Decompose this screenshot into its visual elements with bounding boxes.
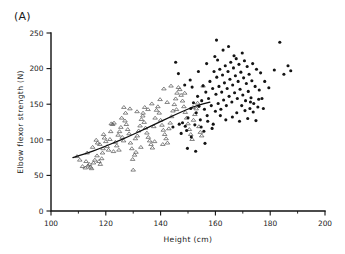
data-point xyxy=(124,123,129,126)
data-point xyxy=(228,95,231,98)
data-point xyxy=(236,97,239,100)
data-point xyxy=(250,79,253,82)
data-point xyxy=(282,73,285,76)
data-point xyxy=(162,87,167,90)
data-point xyxy=(235,57,238,60)
data-point xyxy=(241,93,244,96)
data-point xyxy=(217,85,220,88)
data-point xyxy=(198,130,203,133)
data-point xyxy=(259,71,262,74)
data-point xyxy=(165,101,170,104)
data-point xyxy=(200,125,203,128)
data-point xyxy=(207,97,210,100)
data-point xyxy=(145,131,150,134)
data-point xyxy=(257,98,260,101)
data-point xyxy=(232,54,235,57)
data-point xyxy=(165,141,170,144)
data-point xyxy=(114,144,119,147)
data-point xyxy=(164,137,169,140)
data-point xyxy=(84,160,89,163)
data-point xyxy=(237,80,240,83)
data-point xyxy=(219,114,222,117)
data-point xyxy=(131,168,136,171)
data-point xyxy=(150,146,155,149)
data-point xyxy=(93,158,98,161)
data-point xyxy=(169,84,174,87)
data-point xyxy=(214,110,217,113)
data-point xyxy=(111,150,116,153)
data-point xyxy=(218,68,221,71)
data-point xyxy=(197,70,200,73)
data-point xyxy=(243,59,246,62)
data-point xyxy=(216,59,219,62)
data-point xyxy=(185,129,188,132)
data-point xyxy=(255,68,258,71)
data-point xyxy=(195,111,198,114)
y-axis-title: Elbow flexor strength (N) xyxy=(16,70,25,174)
data-point xyxy=(180,99,185,102)
data-point xyxy=(183,83,186,86)
data-point xyxy=(244,99,247,102)
data-point xyxy=(239,88,242,91)
data-point xyxy=(99,157,104,160)
data-point xyxy=(150,102,155,105)
data-point xyxy=(200,99,203,102)
data-point xyxy=(223,81,226,84)
data-point xyxy=(204,91,207,94)
axis-ticks-group: 100120140160180200050100150200250 xyxy=(29,29,332,228)
data-point xyxy=(199,134,204,137)
data-point xyxy=(226,87,229,90)
data-point xyxy=(260,97,263,100)
data-point xyxy=(152,140,157,143)
data-point xyxy=(174,108,179,111)
data-point xyxy=(231,83,234,86)
data-point xyxy=(139,145,144,148)
data-point xyxy=(135,134,140,137)
data-point xyxy=(192,101,195,104)
data-point xyxy=(252,102,255,105)
data-point xyxy=(232,66,235,69)
data-point xyxy=(206,114,209,117)
data-point xyxy=(142,106,147,109)
data-point xyxy=(224,118,227,121)
data-point xyxy=(133,137,138,140)
data-point xyxy=(90,145,95,148)
data-point xyxy=(211,127,214,130)
data-point xyxy=(227,45,230,48)
data-point xyxy=(286,64,289,67)
data-point xyxy=(246,65,249,68)
y-tick-label: 250 xyxy=(29,29,43,38)
data-point xyxy=(116,133,121,136)
data-point xyxy=(156,105,161,108)
data-point xyxy=(167,127,172,130)
data-point xyxy=(199,118,202,121)
data-point xyxy=(210,104,213,107)
data-point xyxy=(98,162,103,165)
data-point xyxy=(117,148,122,151)
data-point xyxy=(168,121,173,124)
x-tick-label: 160 xyxy=(208,219,222,228)
data-point xyxy=(273,68,276,71)
data-point xyxy=(249,96,252,99)
data-point xyxy=(252,110,255,113)
data-point xyxy=(254,85,257,88)
data-point xyxy=(108,138,113,141)
y-tick-label: 0 xyxy=(39,207,44,216)
x-tick-label: 200 xyxy=(318,219,332,228)
data-point xyxy=(182,105,187,108)
data-point xyxy=(162,133,167,136)
data-point xyxy=(190,135,193,138)
data-point xyxy=(202,84,205,87)
data-point xyxy=(234,74,237,77)
x-tick-label: 140 xyxy=(154,219,168,228)
data-point xyxy=(94,138,99,141)
data-point xyxy=(147,139,152,142)
data-point xyxy=(243,109,246,112)
data-point xyxy=(193,123,196,126)
data-point xyxy=(177,72,180,75)
x-tick-label: 100 xyxy=(44,219,58,228)
data-point xyxy=(130,147,135,150)
data-point xyxy=(188,133,193,136)
data-point xyxy=(101,133,106,136)
data-point xyxy=(229,61,232,64)
